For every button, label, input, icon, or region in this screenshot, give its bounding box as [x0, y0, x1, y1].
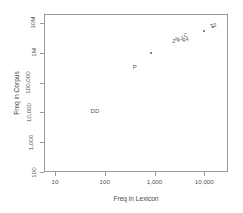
y-axis-tick [40, 112, 44, 113]
data-point [212, 26, 214, 28]
scatter-plot-figure: DDPZNVJCRATS Freq in Lexicon Freq in Cor… [0, 0, 243, 213]
y-axis-tick [40, 142, 44, 143]
data-point: DD [90, 107, 99, 114]
x-axis-tick-label: 100 [100, 178, 110, 185]
data-point: A [186, 37, 189, 42]
data-points-layer: DDPZNVJCRATS [45, 15, 227, 171]
data-point-marker [150, 52, 152, 54]
data-point-label: A [186, 37, 189, 42]
y-axis-tick [40, 172, 44, 173]
x-axis-tick [204, 172, 205, 176]
data-point-marker [203, 30, 205, 32]
y-axis-tick [40, 53, 44, 54]
y-axis-tick [40, 23, 44, 24]
data-point-marker [212, 26, 214, 28]
x-axis-tick [55, 172, 56, 176]
x-axis-tick [155, 172, 156, 176]
y-axis-title-text: Freq in Corpus [13, 71, 21, 115]
x-axis-tick-label: 1,000 [147, 178, 162, 185]
x-axis-title: Freq in Lexicon [44, 195, 228, 203]
x-axis-tick-label: 10,000 [195, 178, 214, 185]
y-axis-tick [40, 83, 44, 84]
data-point [203, 30, 205, 32]
plot-area: DDPZNVJCRATS [44, 14, 228, 172]
y-axis-title: Freq in Corpus [12, 14, 22, 172]
data-point-label: DD [90, 107, 99, 114]
x-axis-tick [105, 172, 106, 176]
data-point [150, 52, 152, 54]
x-axis-tick-label: 10 [52, 178, 59, 185]
data-point: P [133, 64, 137, 71]
data-point-label: P [133, 64, 137, 71]
